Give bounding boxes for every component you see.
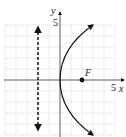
x-axis-label: x	[118, 83, 124, 94]
y-tick-label: 5	[53, 17, 58, 28]
y-axis-label: y	[50, 5, 56, 16]
x-tick-label: 5	[111, 82, 116, 93]
focus-label: F	[84, 67, 92, 78]
focus-point	[80, 78, 85, 83]
parabola-graph: F y 5 5 x	[0, 0, 126, 137]
